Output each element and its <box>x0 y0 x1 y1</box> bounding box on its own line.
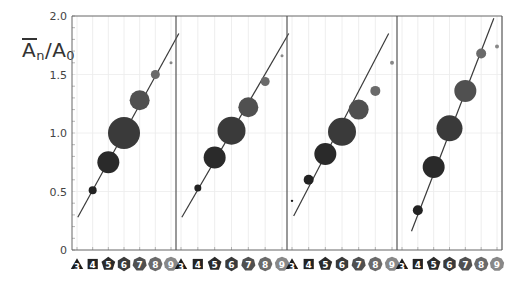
x-tick-label: 9 <box>168 260 174 270</box>
y-tick-label: 1.5 <box>50 69 68 82</box>
x-tick-label: 6 <box>446 260 452 270</box>
data-point <box>423 156 445 178</box>
x-tick-label: 6 <box>228 260 234 270</box>
chart: 00.51.01.52.0345678934567893456789345678… <box>0 0 524 282</box>
x-tick-label: 5 <box>431 260 437 270</box>
data-point <box>495 44 499 48</box>
x-tick-label: 3 <box>399 262 405 272</box>
x-tick-label: 5 <box>322 260 328 270</box>
data-point <box>454 80 476 102</box>
data-point <box>476 48 486 58</box>
x-tick-label: 6 <box>339 260 345 270</box>
data-point <box>130 90 150 110</box>
x-tick-label: 4 <box>415 260 421 270</box>
x-tick-label: 9 <box>389 260 395 270</box>
x-tick-label: 3 <box>178 262 184 272</box>
data-point <box>314 143 336 165</box>
panel-1: 3456789 <box>71 16 179 272</box>
x-tick-label: 8 <box>262 260 268 270</box>
data-point <box>413 205 423 215</box>
x-tick-label: 4 <box>90 260 96 270</box>
data-point <box>89 186 97 194</box>
x-tick-label: 4 <box>306 260 312 270</box>
y-tick-label: 0 <box>60 244 67 257</box>
y-tick-label: 2.0 <box>50 10 68 23</box>
x-tick-label: 3 <box>74 262 80 272</box>
x-tick-label: 8 <box>152 260 158 270</box>
data-point <box>304 175 314 185</box>
x-tick-label: 5 <box>212 260 218 270</box>
x-tick-label: 7 <box>356 260 362 270</box>
data-point <box>349 100 369 120</box>
panel-2: 3456789 <box>175 16 289 272</box>
y-tick-label: 1.0 <box>50 127 68 140</box>
y-tick-label: 0.5 <box>50 186 68 199</box>
x-tick-label: 8 <box>372 260 378 270</box>
data-point <box>204 147 226 169</box>
data-point <box>151 70 160 79</box>
x-tick-label: 6 <box>121 260 127 270</box>
panel-3: 3456789 <box>286 16 399 272</box>
x-tick-label: 3 <box>289 262 295 272</box>
x-tick-label: 8 <box>478 260 484 270</box>
data-point <box>437 115 463 141</box>
data-point <box>291 200 293 202</box>
data-point <box>218 117 246 145</box>
data-point <box>261 77 270 86</box>
x-tick-label: 7 <box>137 260 143 270</box>
data-point <box>390 61 394 65</box>
x-tick-label: 5 <box>105 260 111 270</box>
data-point <box>194 184 201 191</box>
data-point <box>238 97 258 117</box>
panel-4: 3456789 <box>396 16 504 272</box>
x-tick-label: 7 <box>462 260 468 270</box>
x-tick-label: 7 <box>245 260 251 270</box>
data-point <box>97 151 119 173</box>
data-point <box>281 54 284 57</box>
data-point <box>108 117 140 149</box>
x-tick-label: 4 <box>195 260 201 270</box>
x-tick-label: 9 <box>494 260 500 270</box>
data-point <box>370 86 380 96</box>
data-point <box>328 118 356 146</box>
x-tick-label: 9 <box>279 260 285 270</box>
data-point <box>170 61 173 64</box>
